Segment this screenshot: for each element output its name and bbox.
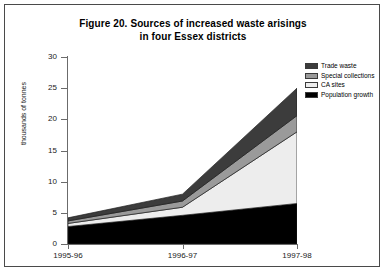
stacked-area-series bbox=[68, 57, 297, 244]
y-axis-tick-label: 25 bbox=[27, 83, 57, 92]
chart-title-line-1: Figure 20. Sources of increased waste ar… bbox=[5, 17, 381, 30]
chart-title-line-2: in four Essex districts bbox=[5, 30, 381, 43]
y-axis-tick bbox=[61, 88, 68, 89]
legend-item: CA sites bbox=[305, 81, 385, 89]
legend-label: Special collections bbox=[321, 72, 374, 80]
y-axis-tick-label: 15 bbox=[27, 146, 57, 155]
legend-swatch bbox=[305, 92, 318, 98]
x-axis-tick-label: 1997-98 bbox=[262, 251, 332, 260]
legend-label: Population growth bbox=[321, 91, 373, 99]
x-axis-tick bbox=[68, 245, 69, 249]
y-axis-tick bbox=[61, 119, 68, 120]
x-axis-tick bbox=[297, 245, 298, 249]
y-axis-tick-label: 0 bbox=[27, 239, 57, 248]
y-axis-title: thousands of tonnes bbox=[20, 66, 27, 162]
y-axis-tick bbox=[61, 244, 68, 245]
legend-label: Trade waste bbox=[321, 62, 357, 70]
x-axis-tick-label: 1995-96 bbox=[33, 251, 103, 260]
legend-swatch bbox=[305, 73, 318, 79]
chart-title: Figure 20. Sources of increased waste ar… bbox=[5, 17, 381, 43]
legend-label: CA sites bbox=[321, 81, 345, 89]
y-axis-tick-label: 30 bbox=[27, 52, 57, 61]
legend-item: Trade waste bbox=[305, 62, 385, 70]
y-axis-tick bbox=[61, 213, 68, 214]
y-axis-tick bbox=[61, 151, 68, 152]
legend-swatch bbox=[305, 82, 318, 88]
y-axis-tick-label: 20 bbox=[27, 114, 57, 123]
y-axis-tick-label: 10 bbox=[27, 177, 57, 186]
legend-item: Special collections bbox=[305, 72, 385, 80]
x-axis-tick bbox=[183, 245, 184, 249]
y-axis-tick-label: 5 bbox=[27, 208, 57, 217]
y-axis-tick bbox=[61, 57, 68, 58]
y-axis-tick bbox=[61, 182, 68, 183]
chart-legend: Trade wasteSpecial collectionsCA sitesPo… bbox=[305, 62, 385, 100]
legend-item: Population growth bbox=[305, 91, 385, 99]
plot-area bbox=[68, 57, 297, 244]
figure-frame: Figure 20. Sources of increased waste ar… bbox=[4, 4, 380, 267]
legend-swatch bbox=[305, 63, 318, 69]
x-axis-tick-label: 1996-97 bbox=[148, 251, 218, 260]
